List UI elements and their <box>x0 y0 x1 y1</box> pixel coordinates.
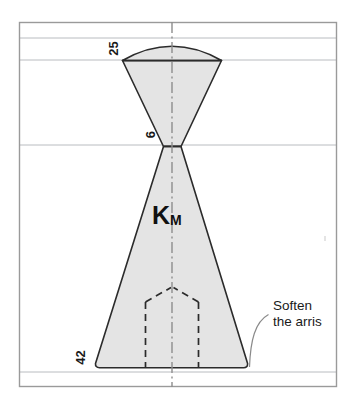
part-label-km-subscript: M <box>170 212 182 228</box>
technical-drawing-canvas: 25 6 42 KM Soften the arris <box>0 0 352 407</box>
dimension-label-6: 6 <box>143 128 158 142</box>
part-label-km: KM <box>152 203 182 228</box>
annotation-line-2: the arris <box>273 314 322 330</box>
part-label-km-main: K <box>152 201 170 229</box>
annotation-line-1: Soften <box>273 298 322 314</box>
dimension-label-42: 42 <box>73 349 88 367</box>
dimension-label-25: 25 <box>106 40 121 58</box>
annotation-soften-the-arris: Soften the arris <box>273 298 322 330</box>
